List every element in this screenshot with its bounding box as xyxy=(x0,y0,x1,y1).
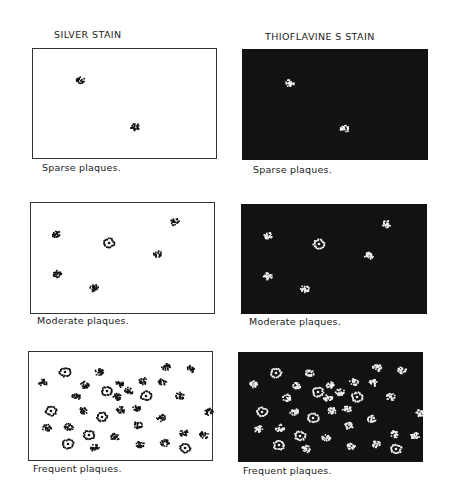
thio-sparse-caption: Sparse plaques. xyxy=(253,164,332,175)
silver-frequent-panel xyxy=(28,351,213,461)
silver-frequent-caption: Frequent plaques. xyxy=(33,463,122,474)
thio-frequent-caption: Frequent plaques. xyxy=(243,465,332,476)
thio-frequent-panel xyxy=(238,352,423,462)
thio-sparse-panel xyxy=(242,49,428,160)
silver-moderate-caption: Moderate plaques. xyxy=(37,315,129,326)
thio-moderate-panel xyxy=(241,204,427,314)
thio-moderate-caption: Moderate plaques. xyxy=(249,316,341,327)
silver-stain-column-title: SILVER STAIN xyxy=(54,29,122,40)
thioflavine-column-title: THIOFLAVINE S STAIN xyxy=(265,31,375,42)
silver-sparse-caption: Sparse plaques. xyxy=(42,162,121,173)
silver-sparse-panel xyxy=(32,48,217,159)
silver-moderate-panel xyxy=(30,202,215,314)
